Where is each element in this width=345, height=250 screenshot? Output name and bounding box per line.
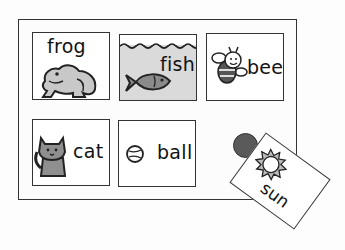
ball-icon <box>125 144 145 164</box>
card-label: ball <box>157 141 192 163</box>
fish-icon <box>124 69 172 97</box>
card-label: cat <box>73 140 103 162</box>
card-label: sun <box>257 178 293 212</box>
card-label: bee <box>247 56 283 78</box>
card-fish[interactable]: fish <box>119 34 197 101</box>
card-cat[interactable]: cat <box>32 119 110 186</box>
frog-icon <box>39 59 101 99</box>
water-wave-line <box>120 42 197 50</box>
bee-icon <box>211 46 249 86</box>
cat-icon <box>33 132 71 178</box>
card-label: frog <box>47 35 86 57</box>
card-ball[interactable]: ball <box>118 120 196 187</box>
card-bee[interactable]: bee <box>206 33 284 101</box>
card-frog[interactable]: frog <box>32 32 110 100</box>
